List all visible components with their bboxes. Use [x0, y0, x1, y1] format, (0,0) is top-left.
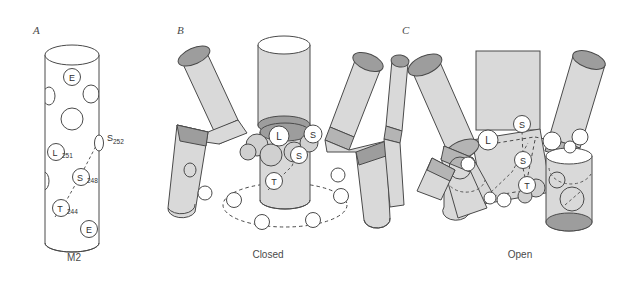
residue-label: S	[77, 173, 83, 183]
panel-b-residue-node	[240, 144, 256, 160]
residue-label: S	[520, 156, 526, 166]
panel-b-ring-node	[227, 193, 242, 208]
residue-subscript: 244	[67, 208, 78, 215]
panel-b-residue-S-upper: S	[304, 125, 322, 143]
panel-b-residue-T: T	[266, 173, 283, 190]
panel-letter-b: B	[177, 24, 184, 36]
panel-b-ring-node	[306, 213, 321, 228]
panel-c-ring-node	[461, 157, 475, 171]
figure-canvas: A B C M2 Closed Open .body { fill:#d9d9d…	[0, 0, 643, 285]
residue-label: E	[69, 73, 75, 83]
panel-letter-c: C	[402, 24, 410, 36]
panel-c-open-gate: S L S T	[405, 47, 608, 231]
panel-c-caption: Open	[480, 249, 560, 260]
residue-label: S	[296, 151, 302, 161]
panel-c-ring-node	[497, 193, 511, 207]
panel-b-residue-node	[260, 144, 282, 166]
panel-a-residue-E-bottom: E	[81, 221, 98, 238]
panel-a-helix: E S 252 L 251 S 248 T 244	[39, 45, 124, 252]
panel-b-helix-center	[258, 36, 310, 134]
residue-subscript: 248	[87, 177, 98, 184]
panel-letter-a: A	[33, 24, 40, 36]
residue-label: L	[485, 135, 491, 146]
residue-subscript: 251	[62, 152, 73, 159]
panel-b-ring-node	[255, 215, 270, 230]
panel-a-residue-S252: S 252	[95, 133, 125, 151]
panel-b-helix-right-near	[325, 140, 390, 228]
panel-b-ring-node	[334, 189, 349, 204]
residue-label: L	[276, 131, 282, 142]
panel-c-helix-center-upper	[476, 51, 540, 130]
residue-label: T	[524, 181, 530, 191]
panel-c-residue-T: T	[519, 177, 536, 194]
panel-b-helix-far-right-partial	[384, 54, 410, 207]
panel-c-ring-node	[484, 192, 496, 204]
panel-b-residue-S-lower: S	[291, 147, 308, 164]
panel-c-residue-S-upper: S	[514, 116, 531, 133]
residue-label: E	[86, 225, 92, 235]
panel-c-residue-S-lower: S	[515, 152, 532, 169]
panel-b-closed-gate: L S S T	[168, 36, 410, 230]
residue-subscript: 252	[113, 138, 124, 145]
residue-label: T	[271, 177, 277, 187]
panel-a-residue-E-top: E	[64, 69, 81, 86]
panel-c-residue-L: L	[478, 130, 498, 150]
panel-b-residue-L: L	[269, 126, 289, 146]
residue-label: L	[52, 148, 57, 158]
residue-label: S	[519, 120, 525, 130]
panel-b-ring-node	[198, 186, 212, 200]
panel-c-ring-node	[564, 141, 576, 153]
panel-b-helix-right-far	[325, 49, 386, 150]
panel-c-ring-node	[543, 132, 561, 150]
panel-a-caption: M2	[44, 252, 104, 263]
figure-drawing: .body { fill:#d9d9d9; stroke:#4a4a4a; st…	[0, 0, 643, 285]
residue-label: T	[57, 204, 63, 214]
panel-c-helix-right-lower	[546, 148, 592, 231]
residue-label: S	[310, 130, 316, 140]
panel-b-caption: Closed	[228, 249, 308, 260]
